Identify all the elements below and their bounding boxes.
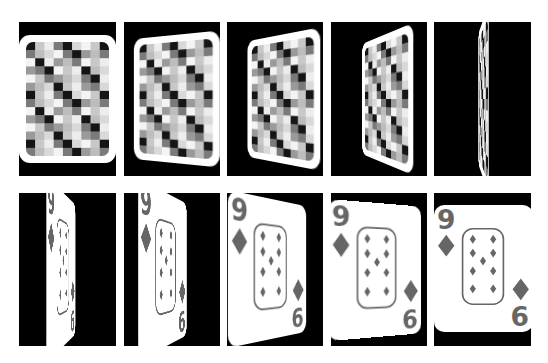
card-face bbox=[228, 193, 306, 346]
frame-2 bbox=[124, 22, 220, 176]
card-back bbox=[478, 22, 489, 176]
frame-7 bbox=[124, 193, 220, 346]
frame-6 bbox=[19, 193, 116, 346]
card-back bbox=[362, 23, 413, 176]
card-back-pattern bbox=[19, 35, 116, 163]
card-face bbox=[434, 205, 531, 332]
card-face bbox=[46, 193, 75, 346]
card-back-pattern bbox=[247, 27, 320, 170]
card-front bbox=[46, 193, 75, 346]
card-back-pattern bbox=[478, 22, 489, 176]
frame-8 bbox=[227, 193, 323, 346]
card-front bbox=[228, 193, 306, 346]
frame-4 bbox=[331, 22, 427, 176]
card-front bbox=[138, 193, 187, 346]
card-back-pattern bbox=[134, 30, 220, 167]
card-front bbox=[434, 205, 531, 332]
frame-5 bbox=[434, 22, 531, 176]
card-back-pattern bbox=[362, 23, 413, 176]
card-back bbox=[247, 27, 320, 170]
card-face bbox=[331, 199, 421, 341]
frame-9 bbox=[331, 193, 427, 346]
card-face bbox=[138, 193, 187, 346]
frame-1 bbox=[19, 22, 116, 176]
card-back bbox=[19, 35, 116, 163]
frame-3 bbox=[227, 22, 323, 176]
card-front bbox=[331, 199, 421, 341]
card-back bbox=[134, 30, 220, 167]
frame-10 bbox=[434, 193, 531, 346]
